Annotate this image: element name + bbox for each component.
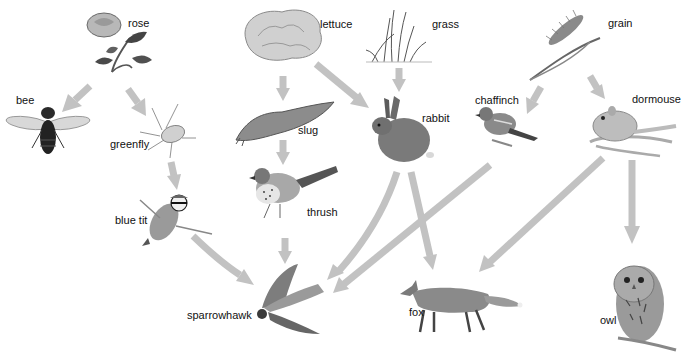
label-blue-tit: blue tit xyxy=(115,214,147,226)
arrow-lettuce-to-slug xyxy=(276,76,290,101)
chaffinch-illustration xyxy=(475,107,538,146)
label-grain: grain xyxy=(608,17,632,29)
arrow-slug-to-thrush xyxy=(276,140,290,165)
label-slug: slug xyxy=(298,124,318,136)
label-chaffinch: chaffinch xyxy=(475,94,519,106)
label-rose: rose xyxy=(128,17,149,29)
lettuce-illustration xyxy=(245,10,321,60)
arrow-rose-to-greenfly xyxy=(128,89,146,116)
arrow-thrush-to-sparrowhawk xyxy=(278,238,292,264)
bee-illustration xyxy=(5,107,90,154)
label-rabbit: rabbit xyxy=(422,112,450,124)
label-sparrowhawk: sparrowhawk xyxy=(187,309,252,321)
arrow-grass-to-rabbit xyxy=(392,68,406,92)
grain-illustration xyxy=(530,10,600,80)
arrows-layer xyxy=(62,64,640,293)
sparrowhawk-illustration xyxy=(257,264,324,334)
slug-illustration xyxy=(236,102,334,146)
dormouse-illustration xyxy=(590,106,676,156)
arrow-dormouse-to-fox xyxy=(479,158,603,272)
arrow-lettuce-to-rabbit xyxy=(316,64,369,108)
label-bee: bee xyxy=(16,94,34,106)
label-thrush: thrush xyxy=(307,206,338,218)
arrow-rabbit-to-sparrowhawk xyxy=(327,172,397,280)
rabbit-illustration xyxy=(372,96,434,162)
grass-illustration xyxy=(366,10,432,62)
label-grass: grass xyxy=(432,18,459,30)
arrow-bluetit-to-sparrowhawk xyxy=(193,236,254,285)
arrow-rose-to-bee xyxy=(62,86,90,112)
label-dormouse: dormouse xyxy=(632,93,681,105)
blue-tit-illustration xyxy=(140,195,212,246)
arrow-grain-to-chaffinch xyxy=(526,87,541,114)
label-greenfly: greenfly xyxy=(110,138,149,150)
label-owl: owl xyxy=(600,314,617,326)
arrow-greenfly-to-bluetit xyxy=(167,162,181,190)
arrow-grain-to-dormouse xyxy=(590,76,605,99)
label-fox: fox xyxy=(409,306,424,318)
label-lettuce: lettuce xyxy=(320,18,352,30)
arrow-dormouse-to-owl xyxy=(624,160,640,244)
owl-illustration xyxy=(614,266,676,350)
